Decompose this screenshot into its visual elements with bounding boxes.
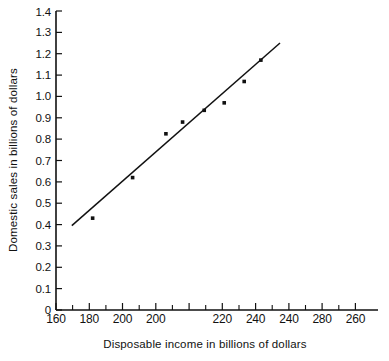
data-point: [242, 80, 246, 84]
y-tick-label: 1.4: [36, 6, 52, 18]
x-tick-label: 220: [213, 312, 233, 326]
data-points-group: [91, 58, 263, 220]
y-tick-label: 0.6: [36, 176, 51, 188]
y-tick-label: 0.8: [36, 133, 51, 145]
data-point: [259, 58, 263, 62]
y-axis-tick-labels: 0 0.1 0.2 0.3 0.4 0.5 0.6 0.7 0.8 0.9 1.…: [36, 6, 52, 317]
x-tick-label: 200: [146, 312, 166, 326]
y-tick-label: 0.3: [36, 240, 51, 252]
y-tick-label: 0.1: [36, 283, 51, 295]
y-tick-label: 1.1: [36, 69, 51, 81]
y-tick-label: 0.9: [36, 112, 51, 124]
x-tick-label: 200: [113, 312, 133, 326]
x-tick-label: 240: [279, 312, 299, 326]
y-tick-label: 1.3: [36, 26, 51, 38]
axes-group: [56, 11, 378, 310]
data-point: [164, 132, 168, 136]
y-tick-label: 1.0: [36, 90, 51, 102]
y-axis-ticks: [56, 11, 62, 310]
trend-line: [72, 43, 280, 226]
x-tick-label: 260: [346, 312, 366, 326]
y-tick-label: 0.7: [36, 155, 51, 167]
x-axis-title: Disposable income in billions of dollars: [103, 338, 307, 350]
data-point: [91, 216, 95, 220]
data-point: [131, 176, 135, 180]
data-point: [222, 101, 226, 105]
scatter-chart: 0 0.1 0.2 0.3 0.4 0.5 0.6 0.7 0.8 0.9 1.…: [0, 0, 389, 361]
x-tick-label: 240: [246, 312, 266, 326]
data-point: [202, 109, 206, 113]
x-axis-ticks: [56, 303, 355, 310]
x-tick-label: 280: [312, 312, 332, 326]
data-point: [181, 120, 185, 124]
y-tick-label: 0.2: [36, 261, 51, 273]
chart-canvas: 0 0.1 0.2 0.3 0.4 0.5 0.6 0.7 0.8 0.9 1.…: [0, 0, 389, 361]
x-tick-label: 160: [46, 312, 66, 326]
y-tick-label: 0.4: [36, 219, 52, 231]
y-axis-title: Domestic sales in billions of dollars: [7, 68, 19, 252]
y-tick-label: 1.2: [36, 48, 51, 60]
x-tick-label: 180: [80, 312, 100, 326]
y-tick-label: 0.5: [36, 197, 51, 209]
